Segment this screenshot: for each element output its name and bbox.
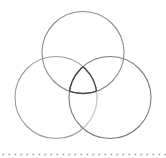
- venn-diagram-canvas: [0, 0, 166, 158]
- venn-circle-top: [42, 12, 124, 94]
- venn-diagram: [0, 0, 166, 158]
